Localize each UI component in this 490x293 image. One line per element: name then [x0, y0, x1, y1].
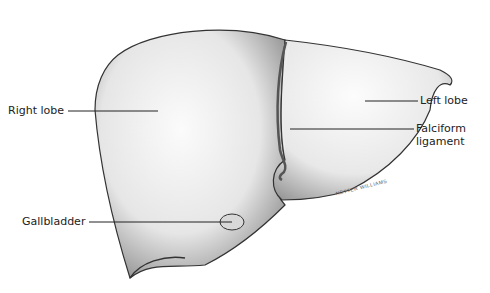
label-right-lobe: Right lobe — [8, 105, 64, 117]
right-lobe-shape — [95, 30, 285, 278]
left-lobe-shape — [273, 40, 452, 200]
label-falciform-1: Falciform — [416, 123, 466, 135]
label-gallbladder: Gallbladder — [22, 216, 85, 228]
label-falciform-2: ligament — [416, 136, 465, 148]
label-left-lobe: Left lobe — [420, 95, 468, 107]
liver-diagram: Right lobe Left lobe Falciform ligament … — [0, 0, 490, 293]
